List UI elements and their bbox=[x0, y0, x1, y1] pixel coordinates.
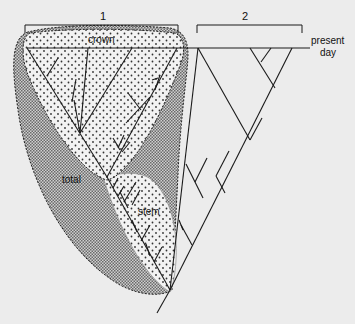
bracket-1-label: 1 bbox=[100, 10, 106, 22]
phylogeny-figure: 1 2 present day bbox=[0, 0, 355, 324]
bracket-2-label: 2 bbox=[242, 10, 248, 22]
stem-label: stem bbox=[138, 206, 160, 217]
crown-label: crown bbox=[88, 34, 115, 45]
bracket-2 bbox=[197, 25, 302, 33]
total-label: total bbox=[62, 174, 81, 185]
present-day-label-line1: present bbox=[311, 35, 345, 46]
present-day-label-line2: day bbox=[320, 47, 336, 58]
